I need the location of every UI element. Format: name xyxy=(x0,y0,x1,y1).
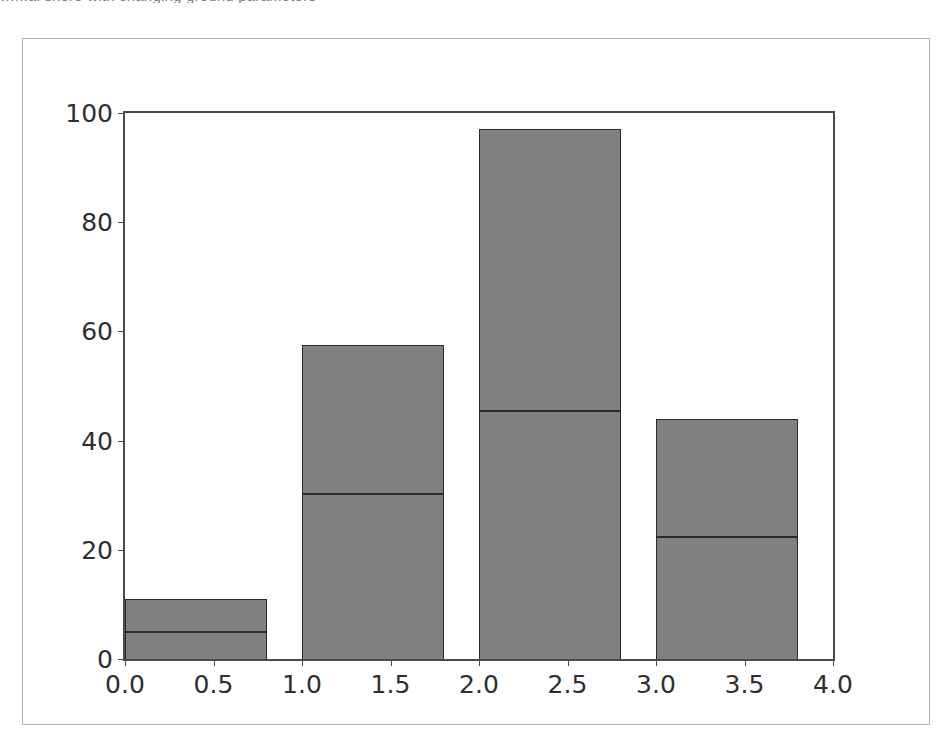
x-tick-mark xyxy=(302,659,303,666)
x-tick-label: 4.0 xyxy=(813,672,853,697)
bar-stack[interactable] xyxy=(302,345,444,659)
clipped-top-text: …mal shore with changing ground paramete… xyxy=(0,0,952,3)
bar-series-layer xyxy=(125,113,833,659)
bar-stack[interactable] xyxy=(656,419,798,659)
chart-plot-area: 020406080100 0.00.51.01.52.02.53.03.54.0 xyxy=(123,111,835,661)
y-tick-label: 80 xyxy=(81,210,113,235)
bar-stack[interactable] xyxy=(479,129,621,659)
x-tick-mark xyxy=(214,659,215,666)
bar-segment-upper[interactable] xyxy=(479,129,621,410)
x-tick-label: 1.0 xyxy=(282,672,322,697)
x-tick-label: 3.0 xyxy=(636,672,676,697)
y-tick-mark xyxy=(118,331,125,332)
y-tick-label: 60 xyxy=(81,319,113,344)
x-tick-label: 2.5 xyxy=(548,672,588,697)
y-tick-mark xyxy=(118,113,125,114)
x-tick-label: 0.0 xyxy=(105,672,145,697)
bar-stack[interactable] xyxy=(125,599,267,659)
x-tick-label: 0.5 xyxy=(194,672,234,697)
y-tick-label: 40 xyxy=(81,428,113,453)
y-tick-label: 0 xyxy=(97,647,113,672)
y-tick-label: 100 xyxy=(65,101,113,126)
x-tick-mark xyxy=(568,659,569,666)
x-tick-label: 3.5 xyxy=(725,672,765,697)
y-tick-mark xyxy=(118,659,125,660)
bar-segment-lower[interactable] xyxy=(302,494,444,659)
figure-frame: 020406080100 0.00.51.01.52.02.53.03.54.0 xyxy=(22,38,930,725)
x-tick-mark xyxy=(656,659,657,666)
y-tick-mark xyxy=(118,441,125,442)
bar-segment-upper[interactable] xyxy=(302,345,444,494)
y-tick-mark xyxy=(118,222,125,223)
x-tick-mark xyxy=(125,659,126,666)
y-tick-label: 20 xyxy=(81,537,113,562)
bar-segment-upper[interactable] xyxy=(125,599,267,632)
x-tick-mark xyxy=(745,659,746,666)
x-tick-mark xyxy=(391,659,392,666)
bar-segment-lower[interactable] xyxy=(656,537,798,659)
x-tick-mark xyxy=(479,659,480,666)
bar-segment-lower[interactable] xyxy=(479,411,621,659)
bar-segment-lower[interactable] xyxy=(125,632,267,659)
bar-segment-upper[interactable] xyxy=(656,419,798,537)
x-tick-label: 1.5 xyxy=(371,672,411,697)
x-tick-label: 2.0 xyxy=(459,672,499,697)
y-tick-mark xyxy=(118,550,125,551)
x-tick-mark xyxy=(833,659,834,666)
